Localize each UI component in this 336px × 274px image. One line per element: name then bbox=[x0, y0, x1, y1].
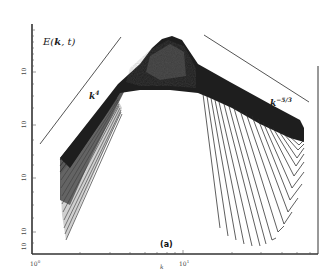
y-tick-5: 10 bbox=[20, 243, 27, 251]
x-tick-exp: 0 bbox=[38, 259, 41, 264]
x-tick-10-1: 101 bbox=[179, 259, 189, 267]
y-tick-4: 10 bbox=[20, 228, 27, 236]
x-axis-label: k bbox=[160, 263, 164, 270]
k4-annotation: k4 bbox=[89, 89, 99, 101]
x-tick-base: 10 bbox=[179, 260, 187, 267]
k53-annotation: k−5/3 bbox=[270, 96, 292, 108]
ylabel-prefix: E( bbox=[43, 36, 54, 47]
ylabel-suffix: , t) bbox=[61, 36, 75, 47]
x-tick-base: 10 bbox=[30, 260, 38, 267]
panel-label: (a) bbox=[160, 240, 173, 249]
y-tick-2: 10 bbox=[20, 121, 27, 129]
y-tick-3: 10 bbox=[20, 174, 27, 182]
k53-exponent: −5/3 bbox=[276, 96, 292, 103]
x-tick-10-0: 100 bbox=[30, 259, 40, 267]
x-tick-exp: 1 bbox=[187, 259, 190, 264]
y-tick-1: 10 bbox=[20, 68, 27, 76]
y-axis-label: E(k, t) bbox=[43, 36, 75, 47]
k4-exponent: 4 bbox=[95, 89, 99, 96]
